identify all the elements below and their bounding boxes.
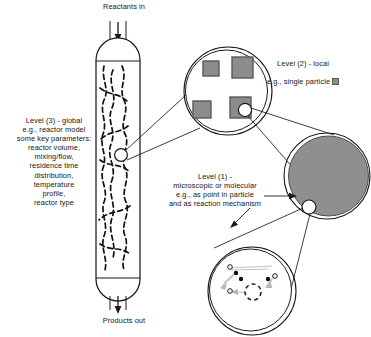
level-2-line-1: Level (2) - local [277, 59, 329, 68]
molecule-open [273, 274, 278, 279]
molecule-filled [234, 271, 238, 275]
molecule-open [228, 289, 233, 294]
magnified-particle [284, 133, 370, 219]
molecular-sample-point [302, 200, 316, 214]
level-2-line-2: e.g., single particle [267, 77, 330, 86]
particle-square [203, 61, 219, 76]
molecule-filled [266, 277, 270, 281]
particle-square [193, 101, 211, 118]
molecule-filled [239, 277, 243, 281]
reactor-multiscale-diagram: Reactants in Products out Level (3) - gl… [0, 0, 371, 337]
level-1-description: Level (1) - microscopic or molecular e.g… [148, 172, 282, 208]
molecule-open [228, 265, 233, 270]
single-particle-swatch-icon [332, 78, 339, 85]
particle-sample-point [238, 103, 251, 116]
products-out-label: Products out [72, 316, 176, 325]
reactor-sample-point [115, 149, 128, 162]
level-2-description: Level (2) - local e.g., single particle [248, 50, 358, 86]
level1-inner-ring [210, 249, 292, 331]
reactants-in-label: Reactants in [72, 2, 176, 11]
particle-body [289, 136, 369, 216]
level-3-description: Level (3) - global e.g., reactor model s… [2, 116, 106, 207]
level1-circle [208, 247, 296, 335]
